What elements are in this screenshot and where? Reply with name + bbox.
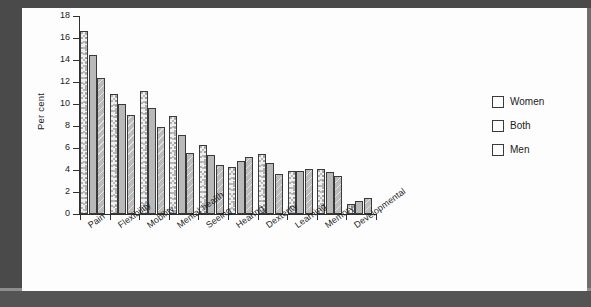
y-tick-mark (73, 126, 79, 127)
y-tick-mark (73, 192, 79, 193)
y-tick-label: 8 (44, 121, 70, 130)
legend-label: Women (510, 96, 544, 107)
bar-men-mobility (157, 127, 165, 214)
y-tick-label: 4 (44, 165, 70, 174)
y-tick-mark (73, 214, 79, 215)
bar-group (199, 16, 224, 214)
bar-men-mental-health (186, 153, 194, 214)
bar-women-hearing (228, 167, 236, 214)
bar-both-mental-health (178, 135, 186, 214)
x-tick-mark (110, 214, 111, 220)
y-tick-mark (73, 38, 79, 39)
y-tick-label: 18 (44, 11, 70, 20)
y-tick-label: 6 (44, 143, 70, 152)
y-tick-mark (73, 170, 79, 171)
legend-item-women[interactable]: Women (492, 92, 544, 111)
bar-women-flexibility (110, 94, 118, 214)
y-tick-label: 14 (44, 55, 70, 64)
legend-swatch-icon (492, 96, 504, 108)
y-tick-mark (73, 16, 79, 17)
scan-border-left (0, 0, 22, 307)
bar-both-developmental (355, 201, 363, 214)
y-tick-label: 16 (44, 33, 70, 42)
chart-legend: WomenBothMen (492, 92, 544, 164)
y-tick-mark (73, 82, 79, 83)
legend-swatch-icon (492, 120, 504, 132)
bar-group (317, 16, 342, 214)
bar-group (169, 16, 194, 214)
bar-group (228, 16, 253, 214)
y-tick-mark (73, 60, 79, 61)
bar-both-hearing (237, 161, 245, 214)
bar-group (80, 16, 105, 214)
legend-item-men[interactable]: Men (492, 140, 544, 159)
y-tick-label: 12 (44, 77, 70, 86)
bar-chart-plot: Per cent 024681012141618 PainFlexibility… (22, 8, 587, 291)
legend-item-both[interactable]: Both (492, 116, 544, 135)
scan-border-bottom (0, 291, 591, 307)
bar-both-flexibility (118, 104, 126, 214)
bar-group (288, 16, 313, 214)
bar-both-dexterity (266, 163, 274, 214)
bar-men-hearing (245, 157, 253, 214)
y-tick-label: 10 (44, 99, 70, 108)
bar-men-pain (97, 78, 105, 214)
y-tick-label: 2 (44, 187, 70, 196)
y-tick-label: 0 (44, 209, 70, 218)
bar-group (347, 16, 372, 214)
legend-swatch-icon (492, 144, 504, 156)
bar-women-pain (80, 31, 88, 214)
bars-layer (80, 16, 376, 214)
bar-group (140, 16, 165, 214)
bar-group (258, 16, 283, 214)
y-tick-mark (73, 104, 79, 105)
scan-border-right (587, 8, 591, 293)
bar-group (110, 16, 135, 214)
bar-women-mobility (140, 91, 148, 214)
x-tick-mark (80, 214, 81, 220)
y-tick-mark (73, 148, 79, 149)
bar-men-flexibility (127, 115, 135, 214)
legend-label: Men (510, 144, 529, 155)
scanned-page: Per cent 024681012141618 PainFlexibility… (0, 0, 591, 307)
bar-both-mobility (148, 108, 156, 214)
bar-women-mental-health (169, 116, 177, 214)
legend-label: Both (510, 120, 531, 131)
bar-both-pain (89, 55, 97, 215)
figure-area: Per cent 024681012141618 PainFlexibility… (22, 8, 587, 291)
scan-border-top (22, 0, 591, 8)
